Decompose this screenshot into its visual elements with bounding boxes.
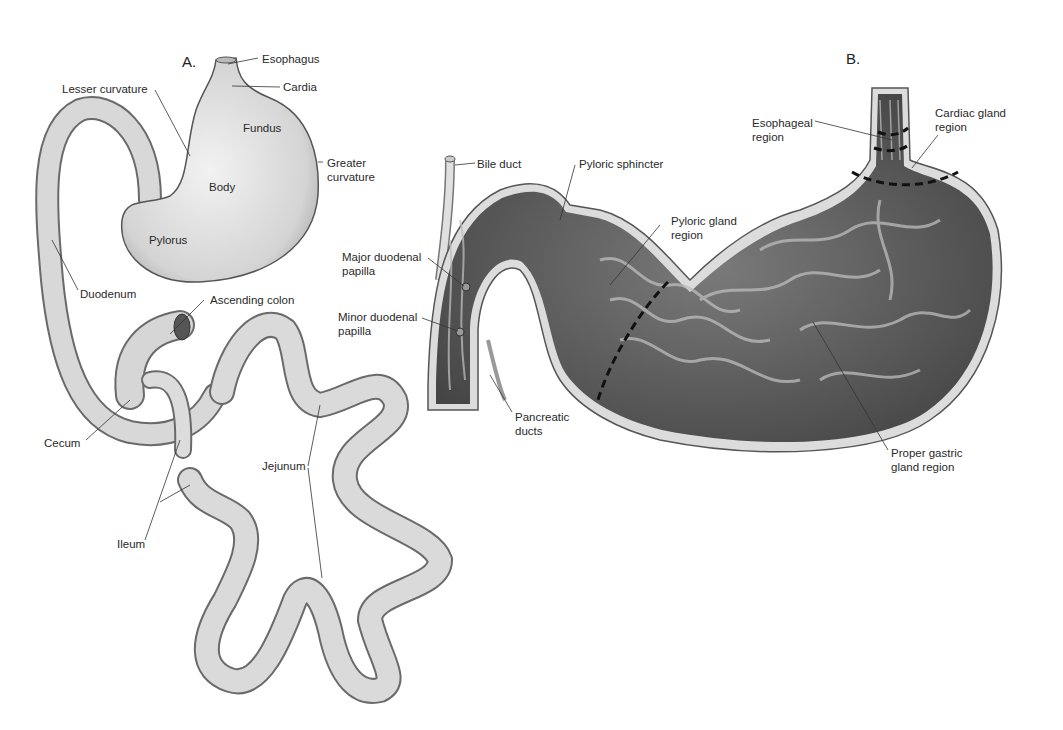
label-proper-gastric-gland-region: Proper gastric gland region (891, 446, 963, 474)
label-esophageal-line1: Esophageal (752, 116, 813, 130)
label-lesser-curvature: Lesser curvature (62, 82, 148, 96)
label-esophagus: Esophagus (262, 52, 320, 66)
label-greater-curvature-line2: curvature (327, 170, 375, 184)
label-cecum: Cecum (44, 436, 80, 450)
label-jejunum: Jejunum (262, 459, 305, 473)
label-cardiac-gland-region: Cardiac gland region (935, 106, 1006, 134)
label-proper-gastric-line2: gland region (891, 460, 963, 474)
label-cardiac-gland-line2: region (935, 120, 1006, 134)
major-papilla-dot (462, 283, 470, 291)
label-major-papilla-line1: Major duodenal (342, 250, 421, 264)
label-major-duodenal-papilla: Major duodenal papilla (342, 250, 421, 278)
label-cardiac-gland-line1: Cardiac gland (935, 106, 1006, 120)
label-major-papilla-line2: papilla (342, 264, 421, 278)
anatomy-illustration (0, 0, 1063, 730)
label-pancreatic-ducts-line2: ducts (515, 424, 569, 438)
label-duodenum: Duodenum (80, 287, 136, 301)
label-pyloric-gland-region: Pyloric gland region (671, 214, 737, 242)
panel-letter-b: B. (846, 50, 860, 67)
label-pyloric-gland-line2: region (671, 228, 737, 242)
label-minor-papilla-line1: Minor duodenal (338, 310, 417, 324)
panel-a-illustration (47, 57, 440, 691)
label-pyloric-sphincter: Pyloric sphincter (579, 157, 663, 171)
label-pancreatic-ducts: Pancreatic ducts (515, 410, 569, 438)
label-fundus: Fundus (243, 121, 281, 135)
label-greater-curvature: Greater curvature (327, 156, 375, 184)
label-minor-papilla-line2: papilla (338, 324, 417, 338)
label-bile-duct: Bile duct (477, 157, 521, 171)
label-esophageal-region: Esophageal region (752, 116, 813, 144)
label-esophageal-line2: region (752, 130, 813, 144)
label-pancreatic-ducts-line1: Pancreatic (515, 410, 569, 424)
label-body: Body (209, 180, 235, 194)
label-minor-duodenal-papilla: Minor duodenal papilla (338, 310, 417, 338)
label-greater-curvature-line1: Greater (327, 156, 375, 170)
label-ileum: Ileum (117, 537, 145, 551)
label-pylorus: Pylorus (149, 233, 187, 247)
label-proper-gastric-line1: Proper gastric (891, 446, 963, 460)
panel-b-illustration (422, 88, 1001, 452)
minor-papilla-dot (456, 328, 464, 336)
label-ascending-colon: Ascending colon (210, 293, 294, 307)
label-pyloric-gland-line1: Pyloric gland (671, 214, 737, 228)
panel-letter-a: A. (182, 53, 196, 70)
label-cardia: Cardia (283, 80, 317, 94)
